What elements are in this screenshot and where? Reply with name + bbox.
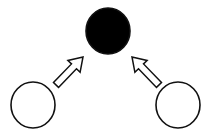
arrows-layer: [54, 57, 162, 87]
node-left-hollow-circle: [11, 82, 55, 128]
node-right-hollow-circle: [156, 82, 200, 128]
arrow-left-to-top-icon: [54, 57, 84, 87]
node-top-filled-circle: [86, 8, 130, 54]
arrow-right-to-top-icon: [132, 57, 162, 87]
nodes-layer: [11, 8, 200, 128]
diagram-canvas: [0, 0, 208, 139]
